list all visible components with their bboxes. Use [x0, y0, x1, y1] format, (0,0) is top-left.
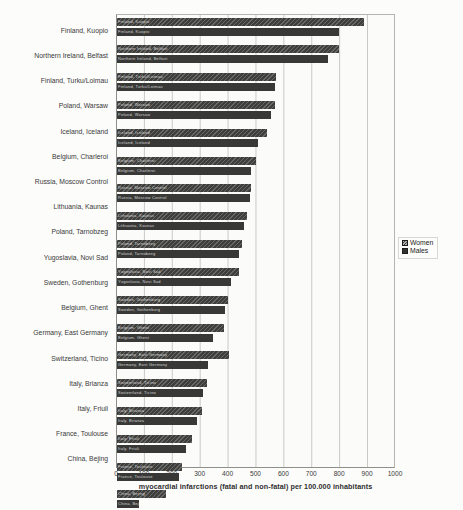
x-tick-label: 0	[103, 470, 129, 477]
bar-inner-text: Belgium, Charleroi	[117, 167, 251, 175]
legend: Women Males	[398, 237, 438, 259]
bar-inner-text: Northern Ireland, Belfast	[117, 55, 328, 63]
bar-inner-text: Germany, East Germany	[117, 361, 208, 369]
males-swatch-icon	[402, 248, 408, 254]
bar-inner-text: Sweden, Gothenburg	[117, 296, 228, 304]
bar-inner-text: Italy, Friuli	[117, 445, 186, 453]
bar-males: Yugoslavia, Novi Sad	[117, 278, 231, 286]
legend-entry-males: Males	[402, 248, 433, 255]
category-label: Finland, Kuopio	[0, 14, 112, 39]
category-label: Yugoslavia, Novi Sad	[0, 241, 112, 266]
x-tick-label: 100	[131, 470, 157, 477]
bar-women: Sweden, Gothenburg	[117, 296, 228, 304]
category-label: Sweden, Gothenburg	[0, 266, 112, 291]
bar-inner-text: Belgium, Ghent	[117, 324, 224, 332]
legend-label-males: Males	[410, 248, 428, 255]
bar-inner-text: China, Bejing	[117, 500, 139, 508]
bar-males: Germany, East Germany	[117, 361, 208, 369]
bar-inner-text: Iceland, Iceland	[117, 139, 258, 147]
category-label: Belgium, Ghent	[0, 291, 112, 316]
bar-males: Russia, Moscow Control	[117, 194, 250, 202]
bar-inner-text: Switzerland, Ticino	[117, 379, 207, 387]
bar-women: Poland, Tarnobzeg	[117, 240, 242, 248]
bar-group: Sweden, GothenburgSweden, Gothenburg	[117, 296, 394, 321]
bar-group: Finland, Turku/LoimauFinland, Turku/Loim…	[117, 73, 394, 98]
bar-inner-text: Northern Ireland, Belfast	[117, 45, 339, 53]
bar-males: Finland, Kuopio	[117, 28, 339, 36]
bar-males: Italy, Brianza	[117, 417, 197, 425]
bar-group: Northern Ireland, BelfastNorthern Irelan…	[117, 45, 394, 70]
bar-women: Finland, Turku/Loimau	[117, 73, 276, 81]
bar-inner-text: Poland, Tarnobzeg	[117, 250, 239, 258]
category-label: Italy, Brianza	[0, 367, 112, 392]
bar-women: Italy, Friuli	[117, 435, 192, 443]
bar-inner-text: Russia, Moscow Control	[117, 194, 250, 202]
x-tick-label: 500	[243, 470, 269, 477]
category-label: France, Toulouse	[0, 418, 112, 443]
bar-women: Russia, Moscow Control	[117, 184, 251, 192]
bar-women: Switzerland, Ticino	[117, 379, 207, 387]
bar-group: Switzerland, TicinoSwitzerland, Ticino	[117, 379, 394, 404]
bar-group: Poland, WarsawPoland, Warsaw	[117, 101, 394, 126]
bar-inner-text: Finland, Kuopio	[117, 28, 339, 36]
bar-inner-text: Sweden, Gothenburg	[117, 306, 225, 314]
x-tick-label: 900	[354, 470, 380, 477]
bar-males: China, Bejing	[117, 500, 139, 508]
bar-inner-text: Finland, Turku/Loimau	[117, 83, 275, 91]
bar-group: Poland, TarnobzegPoland, Tarnobzeg	[117, 240, 394, 265]
bar-males: Switzerland, Ticino	[117, 389, 203, 397]
category-label: Belgium, Charleroi	[0, 140, 112, 165]
bar-inner-text: Belgium, Ghent	[117, 334, 213, 342]
bar-males: Belgium, Charleroi	[117, 167, 251, 175]
bar-group: Belgium, CharleroiBelgium, Charleroi	[117, 157, 394, 182]
category-label: Switzerland, Ticino	[0, 342, 112, 367]
bar-inner-text: Poland, Warsaw	[117, 101, 275, 109]
x-tick-label: 300	[187, 470, 213, 477]
bar-women: Belgium, Ghent	[117, 324, 224, 332]
monica-mi-bar-chart: Finland, KuopioNorthern Ireland, Belfast…	[0, 0, 463, 510]
bar-women: Germany, East Germany	[117, 351, 229, 359]
bar-males: Poland, Tarnobzeg	[117, 250, 239, 258]
bar-women: Northern Ireland, Belfast	[117, 45, 339, 53]
bar-group: Russia, Moscow ControlRussia, Moscow Con…	[117, 184, 394, 209]
bar-inner-text: Belgium, Charleroi	[117, 157, 256, 165]
category-label: Poland, Warsaw	[0, 90, 112, 115]
bar-males: Poland, Warsaw	[117, 111, 271, 119]
bar-women: Yugoslavia, Novi Sad	[117, 268, 239, 276]
bar-inner-text: Italy, Friuli	[117, 435, 192, 443]
bar-group: Italy, BrianzaItaly, Brianza	[117, 407, 394, 432]
bar-males: Belgium, Ghent	[117, 334, 213, 342]
bar-women: Lithuania, Kaunas	[117, 212, 247, 220]
women-swatch-icon	[402, 240, 408, 246]
x-tick-label: 1000	[382, 470, 408, 477]
bar-women: Poland, Warsaw	[117, 101, 275, 109]
bar-women: Belgium, Charleroi	[117, 157, 256, 165]
bar-inner-text: Yugoslavia, Novi Sad	[117, 278, 231, 286]
bar-women: Finland, Kuopio	[117, 18, 364, 26]
bar-inner-text: Finland, Kuopio	[117, 18, 364, 26]
bar-inner-text: Poland, Warsaw	[117, 111, 271, 119]
category-label: Germany, East Germany	[0, 317, 112, 342]
bar-group: Lithuania, KaunasLithuania, Kaunas	[117, 212, 394, 237]
bar-males: Sweden, Gothenburg	[117, 306, 225, 314]
bar-women: Iceland, Iceland	[117, 129, 267, 137]
bar-males: Lithuania, Kaunas	[117, 222, 244, 230]
bar-inner-text: Russia, Moscow Control	[117, 184, 251, 192]
bar-group: Iceland, IcelandIceland, Iceland	[117, 129, 394, 154]
bar-males: Italy, Friuli	[117, 445, 186, 453]
x-tick-label: 800	[326, 470, 352, 477]
bar-women: China, Bejing	[117, 490, 166, 498]
bar-males: Iceland, Iceland	[117, 139, 258, 147]
bar-inner-text: Poland, Tarnobzeg	[117, 240, 242, 248]
x-tick-label: 200	[159, 470, 185, 477]
plot-area: Finland, KuopioFinland, KuopioNorthern I…	[116, 14, 395, 468]
bar-inner-text: Lithuania, Kaunas	[117, 212, 247, 220]
bar-women: Italy, Brianza	[117, 407, 202, 415]
category-label: Northern Ireland, Belfast	[0, 39, 112, 64]
legend-entry-women: Women	[402, 240, 433, 247]
bar-group: Belgium, GhentBelgium, Ghent	[117, 324, 394, 349]
bar-inner-text: Switzerland, Ticino	[117, 389, 203, 397]
bar-group: China, BejingChina, Bejing	[117, 490, 394, 510]
category-label: China, Bejing	[0, 443, 112, 468]
bar-group: Germany, East GermanyGermany, East Germa…	[117, 351, 394, 376]
